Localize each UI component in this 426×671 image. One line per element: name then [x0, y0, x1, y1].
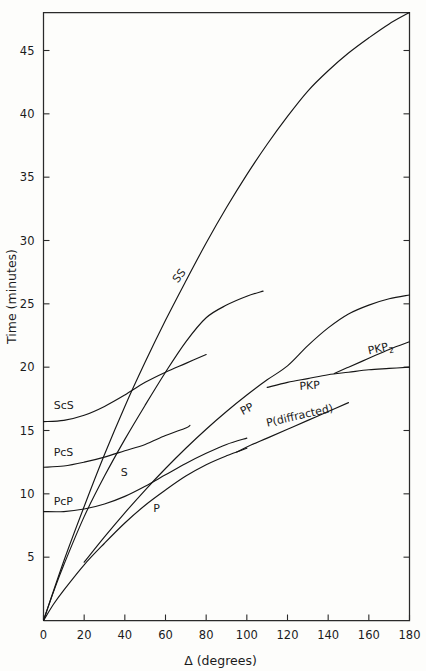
curve-label-p: P [153, 502, 160, 515]
x-tick-label: 100 [236, 628, 258, 642]
x-tick-label: 0 [40, 628, 47, 642]
travel-time-chart: 5101520253035404502040608010012014016018… [0, 0, 426, 671]
curve-label-scs: ScS [54, 399, 74, 412]
y-tick-label: 45 [20, 44, 35, 58]
curve-label-pcp: PcP [54, 495, 74, 508]
y-tick-label: 30 [20, 234, 35, 248]
x-tick-label: 180 [399, 628, 421, 642]
y-tick-label: 5 [27, 550, 34, 564]
y-tick-label: 40 [20, 107, 35, 121]
y-tick-label: 10 [20, 487, 35, 501]
x-tick-label: 160 [358, 628, 380, 642]
curve-label-pkp: PKP [299, 379, 321, 393]
y-tick-label: 15 [20, 424, 35, 438]
chart-background [0, 0, 426, 671]
y-axis-title: Time (minutes) [4, 249, 19, 345]
x-tick-label: 60 [158, 628, 173, 642]
curve-label-pcs: PcS [54, 446, 74, 459]
y-tick-label: 25 [20, 297, 35, 311]
y-tick-label: 20 [20, 360, 35, 374]
y-tick-label: 35 [20, 170, 35, 184]
x-tick-label: 80 [199, 628, 214, 642]
x-tick-label: 20 [77, 628, 92, 642]
x-tick-label: 120 [277, 628, 299, 642]
chart-svg: 5101520253035404502040608010012014016018… [0, 0, 426, 671]
curve-label-s: S [121, 466, 128, 479]
x-tick-label: 140 [317, 628, 339, 642]
x-axis-title: Δ (degrees) [184, 653, 257, 668]
x-tick-label: 40 [118, 628, 133, 642]
